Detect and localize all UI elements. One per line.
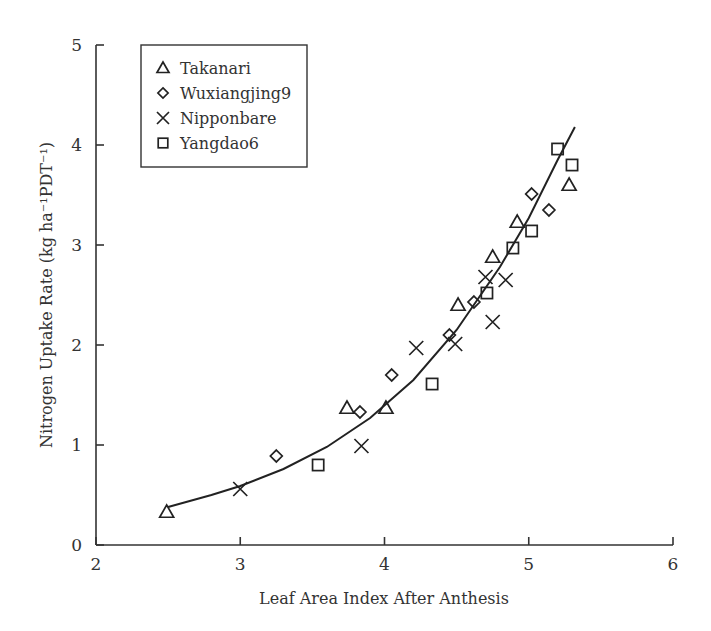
x-marker-icon <box>409 341 423 355</box>
y-tick-label: 5 <box>71 35 82 55</box>
y-tick-label: 1 <box>71 435 82 455</box>
x-tick-label: 6 <box>668 554 679 574</box>
legend-label: Yangdao6 <box>179 134 259 153</box>
x-tick-label: 2 <box>91 554 102 574</box>
x-marker-icon <box>478 270 492 284</box>
triangle-marker-icon <box>562 178 576 190</box>
y-tick-label: 0 <box>71 535 82 555</box>
scatter-chart: 23456012345 Leaf Area Index After Anthes… <box>0 0 711 631</box>
triangle-marker-icon <box>486 250 500 262</box>
x-tick-label: 5 <box>523 554 534 574</box>
triangle-marker-icon <box>340 401 354 413</box>
x-marker-icon <box>499 273 513 287</box>
diamond-marker-icon <box>386 369 398 381</box>
x-marker-icon <box>448 337 462 351</box>
square-marker-icon <box>566 159 577 170</box>
data-points <box>160 143 578 517</box>
triangle-marker-icon <box>510 215 524 227</box>
x-tick-label: 4 <box>379 554 390 574</box>
diamond-marker-icon <box>270 450 282 462</box>
diamond-marker-icon <box>543 204 555 216</box>
square-marker-icon <box>313 459 324 470</box>
x-marker-icon <box>486 315 500 329</box>
legend-label: Takanari <box>180 59 251 78</box>
x-tick-label: 3 <box>235 554 246 574</box>
x-axis-title: Leaf Area Index After Anthesis <box>259 589 509 608</box>
diamond-marker-icon <box>526 188 538 200</box>
diamond-marker-icon <box>354 406 366 418</box>
legend-label: Nipponbare <box>180 109 276 128</box>
square-marker-icon <box>427 378 438 389</box>
y-tick-label: 4 <box>71 135 82 155</box>
legend-label: Wuxiangjing9 <box>180 84 291 103</box>
legend: TakanariWuxiangjing9NipponbareYangdao6 <box>141 45 307 167</box>
triangle-marker-icon <box>451 298 465 310</box>
series-yangdao6 <box>313 143 578 470</box>
y-tick-label: 2 <box>71 335 82 355</box>
x-marker-icon <box>354 439 368 453</box>
series-takanari <box>160 178 576 517</box>
y-tick-label: 3 <box>71 235 82 255</box>
square-marker-icon <box>526 225 537 236</box>
fit-curve <box>168 127 575 507</box>
x-marker-icon <box>233 482 247 496</box>
y-axis-title: Nitrogen Uptake Rate (kg ha⁻¹PDT⁻¹) <box>37 142 56 448</box>
series-wuxiangjing9 <box>270 188 555 462</box>
